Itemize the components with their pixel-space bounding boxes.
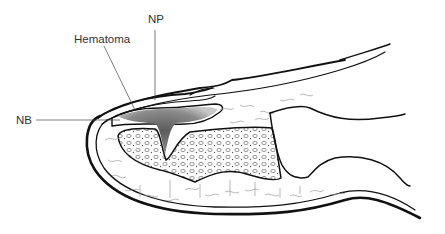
- label-hematoma: Hematoma: [74, 34, 130, 46]
- middle-phalanx: [270, 106, 410, 186]
- fingertip-diagram: [0, 0, 445, 234]
- label-np: NP: [148, 14, 164, 26]
- distal-phalanx: [118, 127, 281, 182]
- hematoma-leader: [104, 46, 135, 110]
- label-nb: NB: [16, 115, 32, 127]
